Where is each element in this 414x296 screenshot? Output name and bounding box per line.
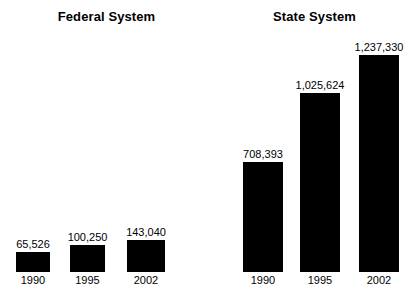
bar-chart: Federal System 65,526100,250143,040 1990… bbox=[0, 0, 414, 296]
chart-panel-federal: Federal System 65,526100,250143,040 1990… bbox=[0, 0, 207, 296]
bar-value-label: 1,237,330 bbox=[355, 41, 404, 53]
bar bbox=[243, 162, 283, 272]
bar-category-label: 2002 bbox=[359, 274, 399, 287]
bar-category-label: 1995 bbox=[70, 274, 105, 287]
bar-group: 65,526 bbox=[16, 238, 50, 272]
plot-area-state: 708,3931,025,6241,237,330 bbox=[207, 0, 414, 272]
bar bbox=[70, 245, 105, 272]
bar-category-label: 1990 bbox=[243, 274, 283, 287]
bar-group: 1,237,330 bbox=[359, 41, 399, 272]
bar-category-label: 1995 bbox=[300, 274, 340, 287]
bar-group: 100,250 bbox=[70, 231, 105, 272]
bar-group: 1,025,624 bbox=[300, 79, 340, 272]
bar bbox=[127, 240, 165, 272]
bar-value-label: 1,025,624 bbox=[296, 79, 345, 91]
bar-group: 143,040 bbox=[127, 226, 165, 272]
bar-category-label: 2002 bbox=[127, 274, 165, 287]
bar bbox=[359, 55, 399, 272]
bar-value-label: 100,250 bbox=[68, 231, 108, 243]
bar-value-label: 65,526 bbox=[16, 238, 50, 250]
bar-group: 708,393 bbox=[243, 148, 283, 272]
bar-category-label: 1990 bbox=[16, 274, 50, 287]
bar-value-label: 708,393 bbox=[243, 148, 283, 160]
bar bbox=[300, 93, 340, 272]
bar-value-label: 143,040 bbox=[126, 226, 166, 238]
bar bbox=[16, 252, 50, 272]
chart-panel-state: State System 708,3931,025,6241,237,330 1… bbox=[207, 0, 414, 296]
plot-area-federal: 65,526100,250143,040 bbox=[0, 0, 207, 272]
